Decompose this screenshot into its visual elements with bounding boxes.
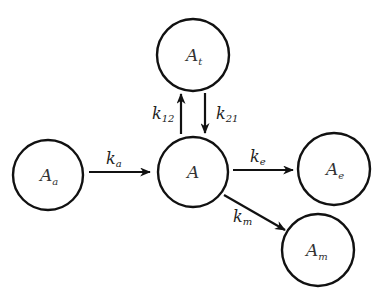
node-A: A xyxy=(158,137,228,207)
node-Am: Am xyxy=(282,214,354,286)
edge-ka-label: ka xyxy=(106,149,122,169)
compartment-diagram: Aa A At Ae Am ka k12 k21 xyxy=(0,0,387,307)
node-Aa-label: Aa xyxy=(38,165,58,187)
edge-k21: k21 xyxy=(205,93,238,133)
edge-ke: ke xyxy=(233,147,293,170)
edge-ka: ka xyxy=(89,149,150,172)
edge-km: km xyxy=(224,195,285,230)
node-At-label: At xyxy=(184,45,203,67)
node-At: At xyxy=(157,19,229,91)
node-Aa: Aa xyxy=(13,140,83,210)
node-A-label: A xyxy=(185,162,199,182)
edge-k12: k12 xyxy=(152,94,181,134)
diagram-canvas: Aa A At Ae Am ka k12 k21 xyxy=(0,0,387,307)
edge-k21-label: k21 xyxy=(216,104,238,124)
node-Am-label: Am xyxy=(304,240,328,262)
node-Ae: Ae xyxy=(298,133,370,205)
edge-ke-label: ke xyxy=(250,147,266,167)
edge-k12-label: k12 xyxy=(152,104,174,124)
node-Ae-label: Ae xyxy=(324,159,344,181)
